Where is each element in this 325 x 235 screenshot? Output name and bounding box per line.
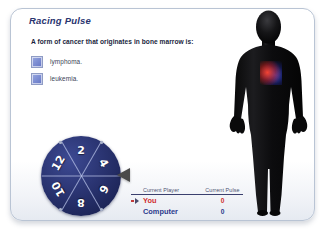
active-player-arrow-icon — [131, 198, 141, 204]
player-name: Computer — [131, 207, 202, 216]
page-title: Racing Pulse — [29, 15, 91, 26]
column-header-player: Current Player — [131, 187, 202, 193]
option-checkbox-icon[interactable] — [31, 73, 43, 85]
wheel-pin — [59, 141, 62, 144]
wheel-pin — [100, 208, 103, 211]
quiz-option-lymphoma[interactable]: lymphoma. — [31, 53, 181, 70]
option-checkbox-icon[interactable] — [31, 56, 43, 68]
racing-pulse-card: Racing Pulse A form of cancer that origi… — [10, 8, 315, 221]
player-name: You — [131, 196, 202, 205]
spinner-wheel[interactable]: 2 4 6 8 10 12 — [41, 136, 123, 218]
human-body-silhouette — [213, 9, 315, 220]
quiz-question: A form of cancer that originates in bone… — [31, 38, 193, 45]
wheel-disc[interactable]: 2 4 6 8 10 12 — [41, 136, 121, 216]
screenshot-root: Racing Pulse A form of cancer that origi… — [0, 0, 325, 235]
wheel-pin — [59, 208, 62, 211]
wheel-pin — [100, 141, 103, 144]
quiz-options: lymphoma. leukemia. — [31, 53, 181, 87]
quiz-option-label: leukemia. — [50, 75, 78, 82]
left-triangle-pointer-icon — [117, 168, 130, 182]
body-shape — [230, 11, 308, 217]
quiz-option-leukemia[interactable]: leukemia. — [31, 70, 181, 87]
quiz-option-label: lymphoma. — [50, 58, 82, 65]
